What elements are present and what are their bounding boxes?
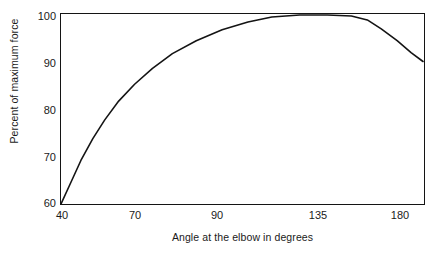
x-tick-label-70: 70 xyxy=(105,209,165,221)
x-axis-tick-labels: 40 70 90 135 180 xyxy=(60,209,425,227)
data-curve-path xyxy=(61,15,423,204)
y-tick-label-100: 100 xyxy=(16,10,56,22)
x-axis-title: Angle at the elbow in degrees xyxy=(60,231,425,243)
data-curve-svg xyxy=(61,14,424,204)
y-tick-label-90: 90 xyxy=(16,57,56,69)
y-axis-tick-labels: 100 90 80 70 60 xyxy=(12,13,56,205)
x-tick-label-90: 90 xyxy=(187,209,247,221)
y-tick-label-80: 80 xyxy=(16,104,56,116)
y-tick-label-70: 70 xyxy=(16,151,56,163)
plot-area xyxy=(60,13,425,205)
x-tick-label-180: 180 xyxy=(370,209,430,221)
x-tick-label-135: 135 xyxy=(288,209,348,221)
y-tick-label-60: 60 xyxy=(16,197,56,209)
x-tick-label-40: 40 xyxy=(32,209,92,221)
chart-container: Percent of maximum force 100 90 80 70 60… xyxy=(0,0,442,257)
